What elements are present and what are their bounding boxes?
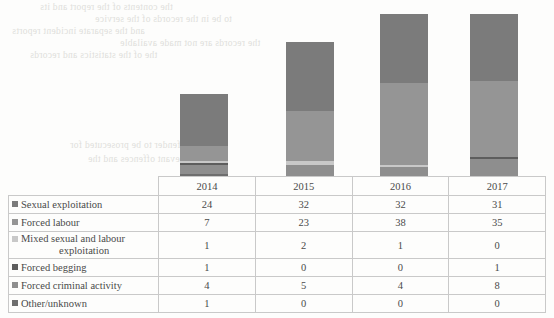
table-body: Sexual exploitation24323231Forced labour… — [9, 196, 546, 313]
legend-label-text: Forced labour — [21, 217, 80, 228]
bar-column-2014 — [180, 94, 228, 176]
table-cell-2016: 38 — [352, 214, 449, 232]
table-cell-2014: 24 — [159, 196, 256, 214]
table-cell-2014: 4 — [159, 277, 256, 295]
bar-column-2017 — [470, 14, 518, 176]
bar-column-2016 — [380, 14, 428, 176]
column-header-2014: 2014 — [159, 177, 256, 196]
legend-swatch-icon — [12, 219, 18, 225]
bar-segment-sexual-exploitation-2016 — [380, 14, 428, 83]
table-cell-2016: 1 — [352, 232, 449, 259]
table-corner-cell — [9, 177, 159, 196]
table-cell-2016: 0 — [352, 295, 449, 313]
table-cell-2017: 31 — [449, 196, 546, 214]
table-cell-2016: 32 — [352, 196, 449, 214]
table-cell-2014: 1 — [159, 259, 256, 277]
bar-segment-forced-criminal-activity-2015 — [286, 165, 334, 176]
data-table: 2014 2015 2016 2017 Sexual exploitation2… — [8, 176, 546, 313]
column-header-2016: 2016 — [352, 177, 449, 196]
legend-row-label: Sexual exploitation — [9, 196, 159, 214]
bar-segment-sexual-exploitation-2017 — [470, 14, 518, 81]
legend-row-label: Forced criminal activity — [9, 277, 159, 295]
legend-label-text: Forced begging — [21, 262, 87, 273]
bar-segment-forced-labour-2016 — [380, 83, 428, 165]
legend-swatch-icon — [12, 300, 18, 306]
table-cell-2015: 23 — [255, 214, 352, 232]
legend-row-label: Forced labour — [9, 214, 159, 232]
bar-segment-forced-criminal-activity-2017 — [470, 159, 518, 176]
table-cell-2016: 4 — [352, 277, 449, 295]
bar-segment-forced-criminal-activity-2014 — [180, 165, 228, 174]
table-cell-2017: 35 — [449, 214, 546, 232]
table-row: Sexual exploitation24323231 — [9, 196, 546, 214]
table-cell-2017: 8 — [449, 277, 546, 295]
bar-segment-forced-criminal-activity-2016 — [380, 167, 428, 176]
legend-label-text: Sexual exploitation — [21, 199, 102, 210]
bar-segment-forced-labour-2015 — [286, 111, 334, 161]
table-row: Mixed sexual and labourexploitation1210 — [9, 232, 546, 259]
legend-swatch-icon — [12, 201, 18, 207]
table-cell-2015: 32 — [255, 196, 352, 214]
table-row: Other/unknown1000 — [9, 295, 546, 313]
legend-swatch-icon — [12, 264, 18, 270]
table-cell-2015: 0 — [255, 295, 352, 313]
legend-row-label: Forced begging — [9, 259, 159, 277]
table-cell-2015: 5 — [255, 277, 352, 295]
legend-label-line-1: Mixed sexual and labour — [12, 233, 156, 245]
legend-label-line-2: exploitation — [12, 245, 156, 257]
table-cell-2014: 1 — [159, 295, 256, 313]
legend-label-text: Forced criminal activity — [21, 280, 122, 291]
bar-column-2015 — [286, 42, 334, 176]
table-cell-2014: 7 — [159, 214, 256, 232]
table-cell-2015: 0 — [255, 259, 352, 277]
legend-row-label: Mixed sexual and labourexploitation — [9, 232, 159, 259]
table-row: Forced labour7233835 — [9, 214, 546, 232]
table-header-row: 2014 2015 2016 2017 — [9, 177, 546, 196]
table-row: Forced criminal activity4548 — [9, 277, 546, 295]
stacked-column-chart — [0, 0, 554, 178]
table-row: Forced begging1001 — [9, 259, 546, 277]
bar-segment-sexual-exploitation-2015 — [286, 42, 334, 111]
bar-segment-sexual-exploitation-2014 — [180, 94, 228, 146]
table-cell-2014: 1 — [159, 232, 256, 259]
table-cell-2017: 0 — [449, 232, 546, 259]
table-cell-2016: 0 — [352, 259, 449, 277]
bar-segment-forced-labour-2014 — [180, 146, 228, 161]
legend-label-text: Other/unknown — [21, 298, 87, 309]
bar-segment-forced-labour-2017 — [470, 81, 518, 157]
document-page: the contents of the report and itsto be … — [0, 0, 554, 318]
column-header-2017: 2017 — [449, 177, 546, 196]
table-cell-2015: 2 — [255, 232, 352, 259]
legend-swatch-icon — [12, 236, 18, 242]
column-header-2015: 2015 — [255, 177, 352, 196]
table-cell-2017: 0 — [449, 295, 546, 313]
legend-row-label: Other/unknown — [9, 295, 159, 313]
legend-swatch-icon — [12, 282, 18, 288]
table-cell-2017: 1 — [449, 259, 546, 277]
